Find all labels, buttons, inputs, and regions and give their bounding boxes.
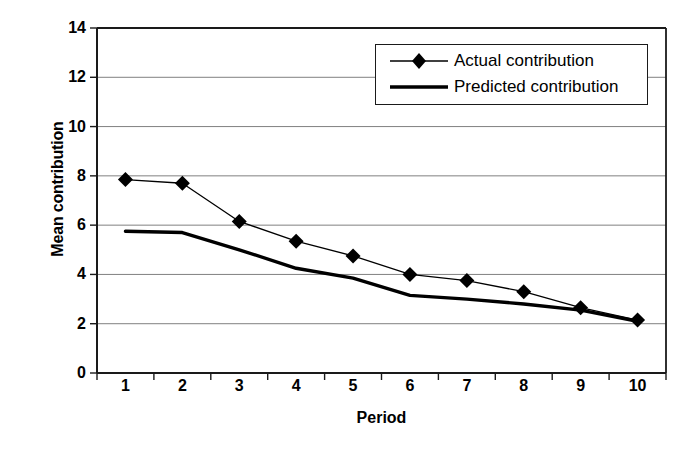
data-point-marker bbox=[346, 248, 361, 263]
data-series-layer bbox=[118, 172, 645, 327]
y-axis-tick-marks bbox=[90, 28, 97, 373]
data-point-marker bbox=[118, 172, 133, 187]
legend-label: Actual contribution bbox=[454, 51, 594, 71]
x-axis-tick-label: 5 bbox=[333, 377, 373, 395]
chart-figure: Mean contribution 02468101214 1234567891… bbox=[0, 0, 694, 457]
data-point-marker bbox=[289, 234, 304, 249]
series-line-actual-contribution bbox=[125, 180, 637, 320]
x-axis-tick-label: 9 bbox=[561, 377, 601, 395]
data-point-marker bbox=[175, 176, 190, 191]
chart-legend: Actual contribution Predicted contributi… bbox=[375, 44, 648, 105]
legend-label: Predicted contribution bbox=[454, 77, 618, 97]
x-axis-tick-label: 4 bbox=[276, 377, 316, 395]
x-axis-tick-label: 7 bbox=[447, 377, 487, 395]
x-axis-tick-labels: 12345678910 bbox=[97, 377, 666, 403]
x-axis-tick-label: 6 bbox=[390, 377, 430, 395]
data-point-marker bbox=[402, 267, 417, 282]
x-axis-tick-label: 1 bbox=[105, 377, 145, 395]
x-axis-tick-label: 8 bbox=[504, 377, 544, 395]
x-axis-tick-label: 10 bbox=[618, 377, 658, 395]
data-point-marker bbox=[516, 284, 531, 299]
legend-entry-actual-contribution: Actual contribution bbox=[376, 48, 647, 74]
x-axis-tick-label: 3 bbox=[219, 377, 259, 395]
data-point-marker bbox=[630, 313, 645, 328]
x-axis-title: Period bbox=[97, 409, 666, 427]
data-point-marker bbox=[232, 214, 247, 229]
legend-key-line-with-diamond-marker bbox=[388, 49, 450, 73]
legend-entry-predicted-contribution: Predicted contribution bbox=[376, 74, 647, 100]
data-point-marker bbox=[573, 300, 588, 315]
data-point-marker bbox=[459, 273, 474, 288]
legend-key-thick-line bbox=[388, 75, 450, 99]
series-line-predicted-contribution bbox=[125, 231, 637, 321]
x-axis-tick-label: 2 bbox=[162, 377, 202, 395]
